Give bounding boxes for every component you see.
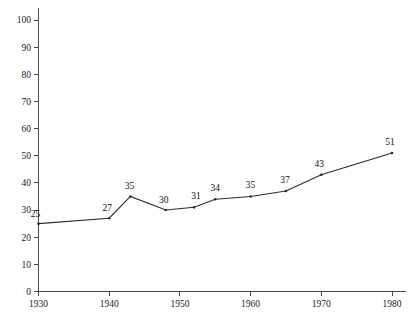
year-tick-label: 1980 [383,299,402,309]
data-point [129,195,132,198]
data-point-label: 31 [191,191,201,201]
value-tick-label: 0 [26,287,31,297]
data-point-label: 34 [211,183,221,193]
data-point [214,198,217,201]
value-tick-label: 70 [22,97,32,107]
value-tick-label: 50 [22,151,32,161]
value-tick-label: 80 [22,70,32,80]
value-tick-label: 100 [17,15,32,25]
year-axis-ticks: 193019401950196019701980 [29,292,402,310]
value-tick-label: 90 [22,43,32,53]
data-point-label: 27 [102,203,112,213]
data-point-label: 30 [159,195,169,205]
year-tick-label: 1950 [170,299,189,309]
data-point [320,173,323,176]
value-tick-label: 60 [22,124,32,134]
data-point [285,190,288,193]
data-point-label: 25 [31,209,41,219]
year-tick-label: 1960 [241,299,260,309]
value-tick-label: 40 [22,178,32,188]
data-point [193,206,196,209]
chart-canvas: 1009080706050403020100 19301940195019601… [0,0,416,323]
year-tick-label: 1970 [312,299,331,309]
data-point-label: 51 [385,137,395,147]
value-tick-label: 10 [22,260,32,270]
data-point-label: 35 [246,180,256,190]
data-point [108,217,111,220]
data-point [249,195,252,198]
series-1-point-labels: 25273530313435374351 [31,137,395,219]
data-point [37,222,40,225]
year-tick-label: 1940 [100,299,119,309]
year-tick-label: 1930 [29,299,48,309]
value-tick-label: 20 [22,233,32,243]
data-point [391,152,394,155]
value-axis-ticks: 1009080706050403020100 [17,15,39,297]
data-point-label: 37 [280,175,290,185]
line-chart: 1009080706050403020100 19301940195019601… [0,0,416,323]
data-point [164,209,167,212]
data-point-label: 35 [125,181,135,191]
data-point-label: 43 [315,159,325,169]
